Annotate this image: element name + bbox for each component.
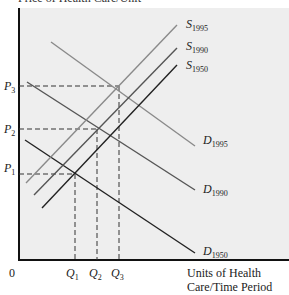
label-s1995: S1995: [186, 18, 208, 33]
demand-1995-line: [51, 42, 195, 146]
label-p3: P3: [4, 80, 15, 95]
label-d1990: D1990: [203, 183, 228, 198]
origin-label: 0: [9, 266, 15, 280]
chart-svg: [0, 0, 289, 295]
x-axis-label-line2: Care/Time Period: [187, 280, 272, 294]
x-axis-label-line1: Units of Health: [187, 266, 272, 280]
equilibrium-guides: [19, 86, 119, 260]
label-q2: Q2: [89, 267, 102, 282]
label-s1990: S1990: [186, 40, 208, 55]
supply-1995-line: [26, 25, 177, 183]
label-s1950: S1950: [186, 59, 208, 74]
supply-1990-line: [34, 48, 177, 195]
label-d1950: D1950: [203, 245, 228, 260]
x-axis-label: Units of Health Care/Time Period: [187, 266, 272, 294]
label-d1995: D1995: [203, 134, 228, 149]
label-p1: P1: [4, 162, 15, 177]
label-q1: Q1: [66, 267, 79, 282]
label-q3: Q3: [111, 267, 124, 282]
label-p2: P2: [4, 123, 15, 138]
